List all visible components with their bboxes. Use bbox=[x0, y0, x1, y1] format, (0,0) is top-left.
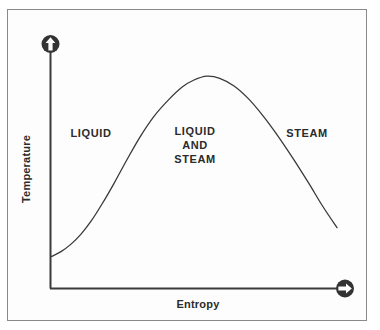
region-label-line-3: STEAM bbox=[155, 152, 235, 166]
circle-arrow-up-icon bbox=[42, 35, 60, 53]
region-label-liquid-and-steam: LIQUID AND STEAM bbox=[155, 124, 235, 166]
x-axis-title: Entropy bbox=[148, 298, 248, 310]
region-label-liquid: LIQUID bbox=[56, 126, 126, 140]
region-label-steam: STEAM bbox=[272, 126, 342, 140]
circle-arrow-right-icon bbox=[336, 280, 354, 298]
ts-diagram-figure: LIQUID LIQUID AND STEAM STEAM Temperatur… bbox=[0, 0, 380, 330]
y-axis-title: Temperature bbox=[20, 124, 32, 214]
vapor-dome-curve bbox=[51, 76, 337, 257]
region-label-line-1: LIQUID bbox=[155, 124, 235, 138]
region-label-line-2: AND bbox=[155, 138, 235, 152]
